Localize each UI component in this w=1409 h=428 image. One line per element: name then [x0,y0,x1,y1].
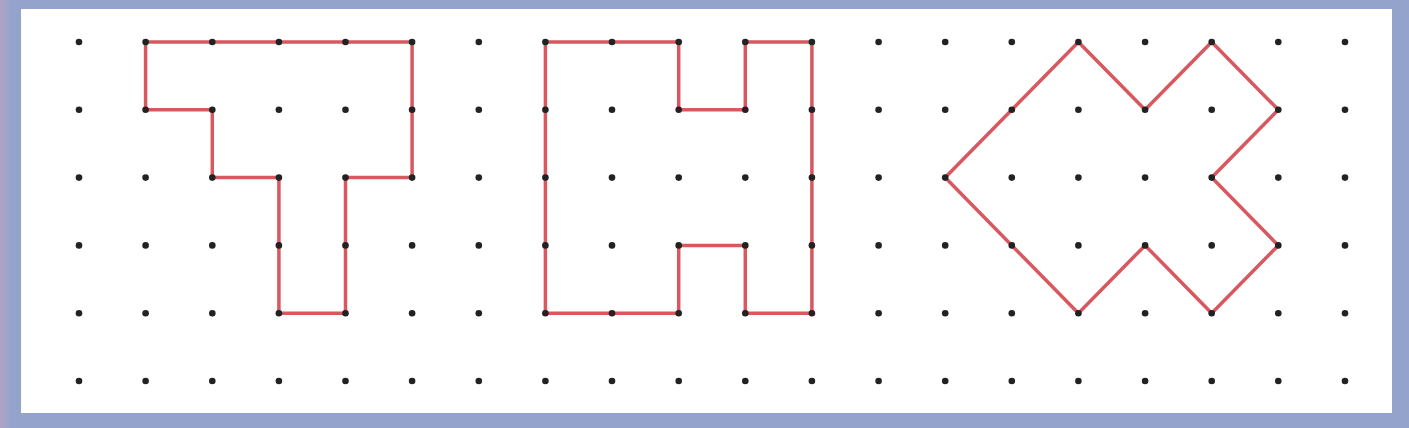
grid-dot [742,378,749,385]
grid-dot [875,378,882,385]
grid-dot [342,378,349,385]
grid-dot [609,378,616,385]
grid-dot [942,174,949,181]
grid-dot [1009,378,1016,385]
grid-dot [1142,378,1149,385]
grid-dot [1208,378,1215,385]
grid-dot [675,174,682,181]
grid-dot [542,242,549,249]
grid-dot [409,39,416,46]
grid-dot [542,378,549,385]
grid-dot [1009,107,1016,114]
grid-dot [476,310,483,317]
grid-dot [142,174,149,181]
grid-dot [742,310,749,317]
grid-dot [609,242,616,249]
grid-dot [1208,39,1215,46]
grid-dot [1342,39,1349,46]
grid-dot [342,174,349,181]
grid-dot [1208,107,1215,114]
grid-dot [409,378,416,385]
grid-dot [142,378,149,385]
grid-dot [542,310,549,317]
grid-dot [742,242,749,249]
grid-dot [1009,310,1016,317]
grid-dot [209,378,216,385]
grid-dot [1009,242,1016,249]
grid-dot [675,310,682,317]
grid-dot [409,174,416,181]
dots-layer [76,39,1349,385]
grid-dot [209,310,216,317]
grid-dot [942,242,949,249]
grid-dot [1075,378,1082,385]
grid-dot [675,242,682,249]
grid-dot [1275,310,1282,317]
grid-dot [142,107,149,114]
grid-dot [742,39,749,46]
grid-dot [76,39,83,46]
grid-dot [142,310,149,317]
grid-dot [409,107,416,114]
grid-dot [1208,174,1215,181]
grid-dot [1275,242,1282,249]
grid-dot [1142,174,1149,181]
grid-dot [1275,39,1282,46]
grid-dot [476,242,483,249]
grid-dot [1342,107,1349,114]
grid-dot [609,107,616,114]
grid-dot [209,242,216,249]
grid-dot [342,310,349,317]
grid-dot [742,107,749,114]
grid-dot [609,174,616,181]
grid-dot [209,174,216,181]
grid-dot [1075,242,1082,249]
grid-dot [209,107,216,114]
grid-dot [142,39,149,46]
grid-dot [609,39,616,46]
grid-dot [609,310,616,317]
grid-dot [76,174,83,181]
grid-dot [942,39,949,46]
grid-dot [1275,378,1282,385]
grid-dot [1342,174,1349,181]
grid-dot [276,39,283,46]
grid-dot [942,107,949,114]
grid-dot [809,174,816,181]
grid-dot [809,378,816,385]
grid-dot [276,107,283,114]
grid-dot [276,174,283,181]
grid-dot [476,39,483,46]
grid-dot [875,39,882,46]
grid-dot [1342,242,1349,249]
grid-dot [875,310,882,317]
grid-dot [809,310,816,317]
grid-dot [342,107,349,114]
grid-dot [342,242,349,249]
grid-dot [875,174,882,181]
grid-dot [542,174,549,181]
grid-dot [942,378,949,385]
geoboard-diagram [0,0,1409,428]
grid-dot [1142,310,1149,317]
grid-dot [1275,174,1282,181]
grid-dot [875,107,882,114]
grid-dot [1075,310,1082,317]
grid-dot [1208,242,1215,249]
grid-dot [1142,39,1149,46]
grid-dot [142,242,149,249]
grid-dot [76,310,83,317]
grid-dot [1342,378,1349,385]
grid-dot [1275,107,1282,114]
shapes-layer [146,42,1279,313]
grid-dot [1075,39,1082,46]
grid-dot [1075,107,1082,114]
grid-dot [809,242,816,249]
grid-dot [342,39,349,46]
grid-dot [809,39,816,46]
grid-dot [276,378,283,385]
grid-dot [942,310,949,317]
grid-dot [76,378,83,385]
grid-dot [1208,310,1215,317]
grid-dot [742,174,749,181]
